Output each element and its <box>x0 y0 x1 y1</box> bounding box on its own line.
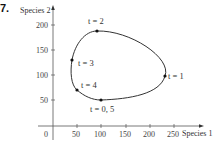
label-t2: t = 2 <box>88 16 104 26</box>
label-t3: t = 3 <box>78 58 94 68</box>
origin-label: 0 <box>44 130 48 139</box>
x-axis-arrow-icon <box>199 124 204 128</box>
point-t0 <box>99 98 102 101</box>
y-axis-label: Species 2 <box>20 6 50 15</box>
x-tick-100: 100 <box>94 130 106 139</box>
y-tick-50: 50 <box>40 96 48 105</box>
y-tick-100: 100 <box>36 71 48 80</box>
y-ticks: 50 100 150 200 <box>36 21 55 105</box>
phase-plot: 7. Species 2 Species 1 0 50 100 150 200 … <box>0 0 223 147</box>
y-axis-arrow-icon <box>51 5 55 10</box>
point-t1 <box>163 74 166 77</box>
x-axis-label: Species 1 <box>182 129 212 138</box>
x-tick-150: 150 <box>119 130 131 139</box>
y-tick-150: 150 <box>36 46 48 55</box>
point-t4 <box>75 88 78 91</box>
problem-number: 7. <box>0 2 9 14</box>
point-t3 <box>70 58 73 61</box>
label-t0: t = 0, 5 <box>90 104 114 114</box>
x-tick-200: 200 <box>143 130 155 139</box>
label-t1: t = 1 <box>168 71 184 81</box>
x-tick-250: 250 <box>167 130 179 139</box>
x-tick-50: 50 <box>72 130 80 139</box>
label-t4: t = 4 <box>81 80 97 90</box>
point-t2 <box>95 29 98 32</box>
y-tick-200: 200 <box>36 21 48 30</box>
